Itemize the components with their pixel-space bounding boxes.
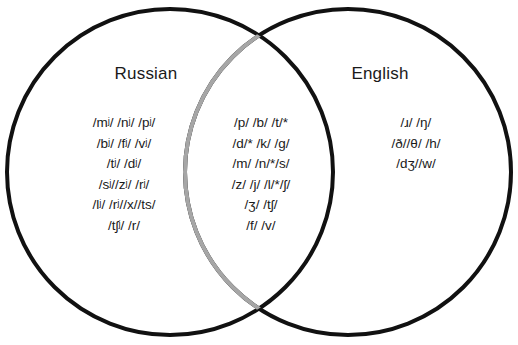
phoneme-line: /dʒ//w/	[350, 154, 482, 175]
phoneme-line: /f/ /v/	[202, 216, 320, 237]
english-only-phoneme-list: /ɹ/ /ŋ/ /ð//θ/ /h/ /dʒ//w/	[350, 113, 482, 175]
phoneme-line: /d/* /k/ /g/	[202, 134, 320, 155]
phoneme-line: /tʲ/ /dʲ/	[48, 154, 200, 175]
phoneme-line: /tʃʲ/ /r/	[48, 216, 200, 237]
english-label: English	[300, 64, 460, 84]
phoneme-line: /ɹ/ /ŋ/	[350, 113, 482, 134]
phoneme-line: /lʲ/ /rʲ//x//ts/	[48, 195, 200, 216]
phoneme-line: /ʒ/ /tʃ/	[202, 195, 320, 216]
phoneme-line: /p/ /b/ /t/*	[202, 113, 320, 134]
phoneme-line: /m/ /n/*/s/	[202, 154, 320, 175]
phoneme-line: /ð//θ/ /h/	[350, 134, 482, 155]
venn-diagram: Russian English /mʲ/ /nʲ/ /pʲ/ /bʲ/ /fʲ/…	[0, 0, 518, 345]
phoneme-line: /sʲ//zʲ/ /rʲ/	[48, 175, 200, 196]
phoneme-line: /bʲ/ /fʲ/ /vʲ/	[48, 134, 200, 155]
russian-only-phoneme-list: /mʲ/ /nʲ/ /pʲ/ /bʲ/ /fʲ/ /vʲ/ /tʲ/ /dʲ/ …	[48, 113, 200, 236]
phoneme-line: /z/ /j/ /l/*/ʃ/	[202, 175, 320, 196]
shared-phoneme-list: /p/ /b/ /t/* /d/* /k/ /g/ /m/ /n/*/s/ /z…	[202, 113, 320, 236]
russian-label: Russian	[66, 64, 226, 84]
phoneme-line: /mʲ/ /nʲ/ /pʲ/	[48, 113, 200, 134]
